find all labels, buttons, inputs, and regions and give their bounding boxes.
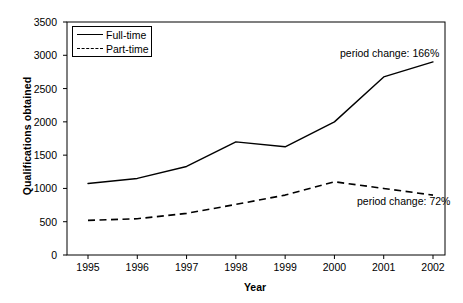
legend-line-swatch-full-time: [77, 34, 103, 35]
legend-item-part-time: Part-time: [73, 42, 151, 56]
y-tick-label: 3500: [19, 17, 57, 28]
x-tick-label: 2001: [360, 262, 408, 273]
x-axis-ticks: [88, 255, 433, 259]
x-tick-label: 1996: [113, 262, 161, 273]
y-tick-label: 1500: [19, 150, 57, 161]
legend: Full-time Part-time: [72, 26, 152, 57]
plot-canvas: [0, 0, 463, 303]
y-tick-label: 2500: [19, 84, 57, 95]
x-tick-label: 2000: [310, 262, 358, 273]
y-tick-label: 500: [19, 217, 57, 228]
y-axis-title: Qualifications obtained: [21, 51, 33, 221]
legend-label-part-time: Part-time: [106, 43, 149, 55]
legend-line-swatch-part-time: [77, 48, 103, 49]
y-tick-label: 2000: [19, 117, 57, 128]
line-chart-figure: Qualifications obtained Year 05001000150…: [0, 0, 463, 303]
x-axis-title: Year: [210, 281, 300, 293]
legend-item-full-time: Full-time: [73, 28, 151, 42]
annotation-part-time-period-change: period change: 72%: [357, 196, 450, 207]
y-tick-label: 1000: [19, 183, 57, 194]
legend-label-full-time: Full-time: [106, 29, 146, 41]
y-tick-label: 0: [19, 250, 57, 261]
y-axis-ticks: [63, 22, 67, 255]
x-tick-label: 1999: [261, 262, 309, 273]
y-tick-label: 3000: [19, 50, 57, 61]
x-tick-label: 1995: [64, 262, 112, 273]
annotation-full-time-period-change: period change: 166%: [340, 48, 439, 59]
x-tick-label: 1997: [163, 262, 211, 273]
x-tick-label: 2002: [409, 262, 457, 273]
x-tick-label: 1998: [212, 262, 260, 273]
